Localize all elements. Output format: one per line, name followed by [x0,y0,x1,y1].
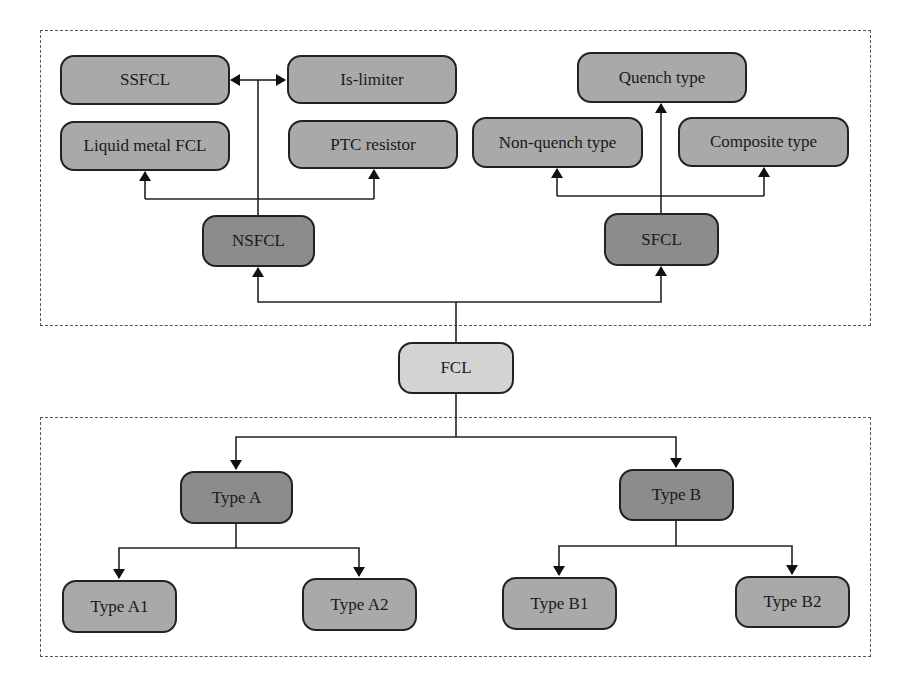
node-type-b2: Type B2 [735,576,850,628]
arrow-fcl-to-nsfcl [258,268,456,342]
node-type-b1: Type B1 [502,577,617,630]
arrow-type-b-to-b1 [559,546,676,575]
arrow-type-b-to-b2 [676,546,792,574]
node-type-a1: Type A1 [62,580,177,633]
node-nsfcl: NSFCL [202,215,315,267]
node-type-b: Type B [619,469,734,521]
arrow-fcl-to-sfcl [456,267,661,302]
node-ssfcl: SSFCL [60,55,230,105]
arrow-fcl-to-type-a [236,437,456,469]
node-composite-type: Composite type [678,117,849,167]
node-type-a2: Type A2 [302,578,417,631]
node-ptc-resistor: PTC resistor [288,120,458,169]
node-type-a: Type A [180,471,293,524]
node-non-quench-type: Non-quench type [472,117,643,168]
arrow-type-a-to-a2 [236,548,359,576]
node-liquid-metal-fcl: Liquid metal FCL [60,121,230,171]
arrow-type-a-to-a1 [119,548,236,578]
arrow-fcl-to-type-b [456,437,676,467]
node-sfcl: SFCL [604,213,719,266]
node-fcl-root: FCL [398,342,514,394]
node-quench-type: Quench type [577,52,747,103]
node-is-limiter: Is-limiter [287,55,457,104]
